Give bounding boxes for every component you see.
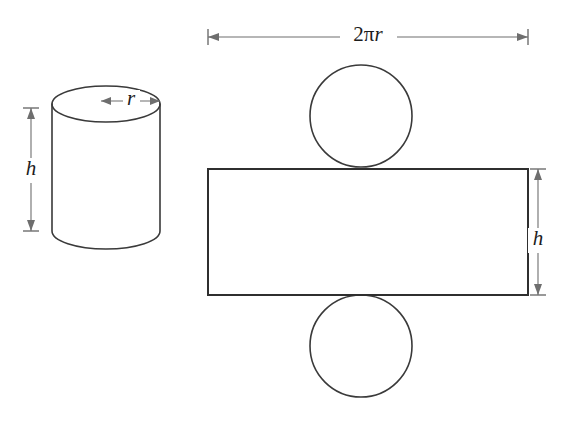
cylinder-body-outline: [52, 104, 160, 249]
cylinder-radius-arrowhead-right: [150, 97, 160, 105]
cylinder-height-arrowhead-up: [27, 108, 35, 119]
net-circle-bottom: [310, 295, 412, 397]
net-width-dimension: 2πr: [208, 22, 528, 50]
cylinder-radius-label: r: [127, 86, 136, 110]
net-rectangle: [208, 169, 528, 295]
cylinder-radius-arrowhead-left: [101, 97, 111, 105]
net-height-arrowhead-up: [534, 169, 542, 180]
net-width-arrowhead-left: [208, 33, 219, 41]
cylinder-net-figure: h r 2πr: [0, 0, 576, 423]
cylinder-height-dimension: h: [21, 108, 41, 231]
net-width-arrowhead-right: [517, 33, 528, 41]
net-height-dimension: h: [528, 169, 548, 295]
cylinder-radius-dimension: r: [101, 86, 160, 112]
cylinder-group: [52, 86, 160, 249]
net-height-label: h: [533, 226, 544, 250]
net-group: [208, 65, 528, 397]
cylinder-top-ellipse: [52, 86, 160, 122]
net-height-arrowhead-down: [534, 284, 542, 295]
net-width-label-variable: r: [374, 22, 383, 46]
net-width-label-prefix: 2π: [353, 22, 375, 46]
figure-canvas: h r 2πr: [0, 0, 576, 423]
net-circle-top: [310, 65, 412, 167]
cylinder-height-label: h: [26, 156, 37, 180]
net-width-label: 2πr: [353, 22, 383, 46]
cylinder-height-arrowhead-down: [27, 220, 35, 231]
